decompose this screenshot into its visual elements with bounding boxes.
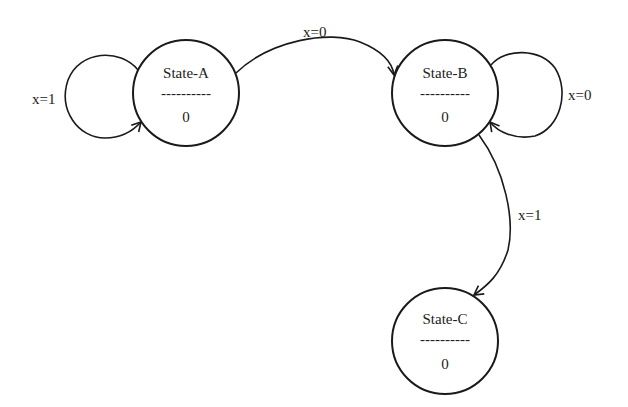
- state-b-output: 0: [441, 109, 449, 125]
- transition-a-to-a: x=1: [32, 55, 141, 138]
- state-c-divider: ----------: [420, 331, 470, 347]
- state-a-output: 0: [182, 109, 190, 125]
- state-a: State-A ---------- 0: [133, 40, 239, 146]
- state-c-output: 0: [441, 356, 449, 372]
- transition-label-a-a: x=1: [32, 91, 55, 107]
- transition-label-a-b: x=0: [303, 24, 326, 40]
- arrow-b-to-c: [474, 135, 510, 295]
- transition-b-to-b: x=0: [490, 53, 591, 137]
- transition-label-b-b: x=0: [568, 87, 591, 103]
- transition-label-b-c: x=1: [518, 207, 541, 223]
- state-c-name: State-C: [423, 311, 468, 327]
- transition-a-to-b: x=0: [236, 24, 394, 75]
- state-b: State-B ---------- 0: [392, 40, 498, 146]
- self-loop-arrow-a: [65, 55, 141, 138]
- state-a-divider: ----------: [161, 85, 211, 101]
- state-b-name: State-B: [423, 65, 468, 81]
- state-b-divider: ----------: [420, 85, 470, 101]
- transition-b-to-c: x=1: [474, 135, 541, 295]
- self-loop-arrow-b: [490, 53, 562, 137]
- state-c: State-C ---------- 0: [392, 288, 498, 394]
- arrow-a-to-b: [236, 37, 394, 75]
- state-diagram: x=1 x=0 x=0 x=1 State-A ---------- 0 Sta…: [0, 0, 628, 407]
- state-a-name: State-A: [163, 65, 209, 81]
